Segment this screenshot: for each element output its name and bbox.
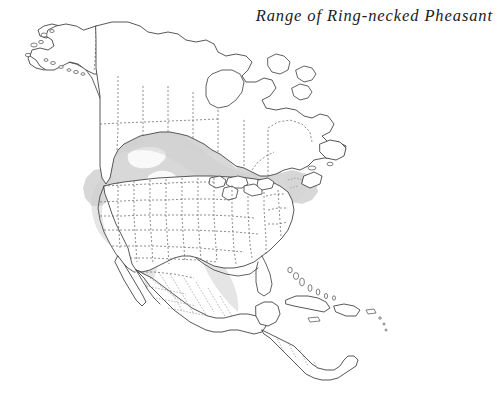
central-america-region — [262, 330, 358, 380]
map-page: Range of Ring-necked Pheasant — [0, 0, 501, 413]
caribbean-region — [286, 267, 387, 331]
north-america-map — [0, 0, 501, 413]
